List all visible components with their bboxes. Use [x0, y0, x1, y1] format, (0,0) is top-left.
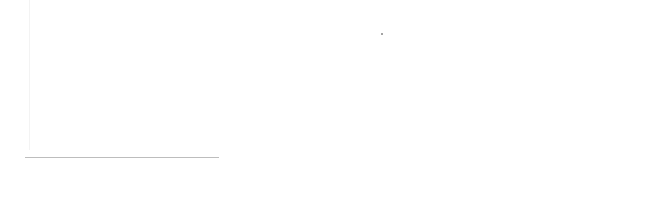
diagram-lines: [0, 0, 658, 207]
